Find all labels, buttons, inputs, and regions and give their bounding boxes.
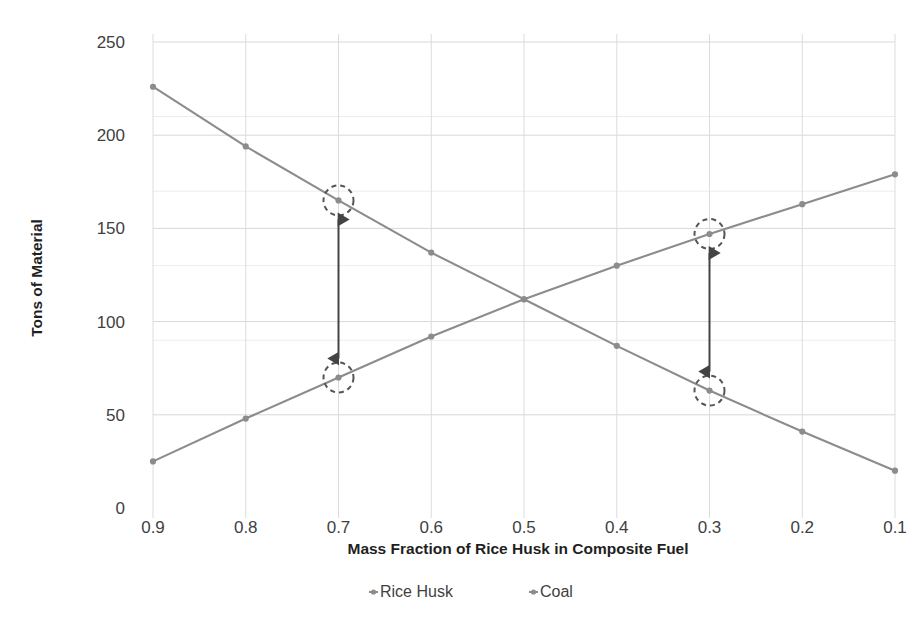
y-axis-tick-label: 50 [106,406,125,425]
legend-marker-swatch [531,589,536,594]
legend-item-label: Coal [540,583,573,600]
x-axis-tick-label: 0.3 [698,518,722,537]
x-axis-tick-labels: 0.90.80.70.60.50.40.30.20.1 [141,518,907,537]
x-axis-tick-label: 0.4 [605,518,629,537]
data-point-marker [614,343,620,349]
data-point-marker [428,333,434,339]
x-axis-tick-label: 0.6 [419,518,443,537]
x-axis-tick-label: 0.8 [234,518,258,537]
y-axis-tick-label: 100 [97,313,125,332]
data-point-marker [521,296,527,302]
x-axis-tick-label: 0.1 [883,518,907,537]
chart-legend: Rice HuskCoal [369,583,573,600]
data-point-marker [335,197,341,203]
y-axis-tick-label: 150 [97,219,125,238]
data-point-marker [150,84,156,90]
y-axis-tick-label: 250 [97,33,125,52]
x-axis-tick-label: 0.7 [327,518,351,537]
data-point-marker [614,263,620,269]
data-point-marker [335,374,341,380]
data-point-marker [243,143,249,149]
legend-item-label: Rice Husk [380,583,454,600]
y-axis-tick-label: 0 [116,499,125,518]
data-point-marker [892,468,898,474]
x-axis-tick-label: 0.5 [512,518,536,537]
y-axis-tick-labels: 050100150200250 [97,33,125,518]
vertical-gridlines [153,34,895,518]
data-point-marker [150,458,156,464]
data-point-marker [243,415,249,421]
x-axis-title: Mass Fraction of Rice Husk in Composite … [347,540,688,557]
data-point-marker [892,171,898,177]
chart-container: 050100150200250 0.90.80.70.60.50.40.30.2… [0,0,917,625]
y-axis-tick-label: 200 [97,126,125,145]
chart-canvas: 050100150200250 0.90.80.70.60.50.40.30.2… [0,0,917,625]
legend-marker-swatch [371,589,376,594]
x-axis-tick-label: 0.9 [141,518,165,537]
data-point-marker [706,387,712,393]
data-point-marker [799,201,805,207]
data-point-marker [799,428,805,434]
data-point-marker [428,250,434,256]
y-axis-title: Tons of Material [28,219,45,337]
data-point-marker [706,231,712,237]
x-axis-tick-label: 0.2 [790,518,814,537]
